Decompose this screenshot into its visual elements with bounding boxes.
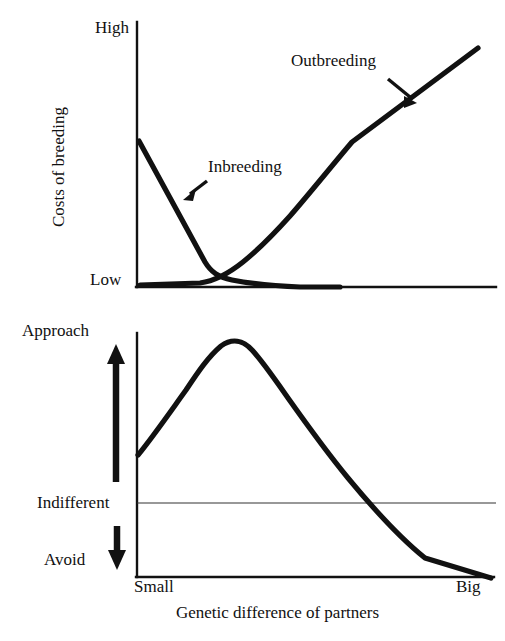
bottom-y-tick-indifferent: Indifferent [37, 494, 109, 511]
bottom-y-tick-approach: Approach [22, 322, 89, 339]
top-y-tick-high: High [95, 19, 129, 36]
breeding-cost-preference-figure: High Low Costs of breeding Inbreeding Ou… [0, 0, 505, 641]
outbreeding-label: Outbreeding [291, 52, 376, 69]
bottom-panel-axes [136, 333, 496, 577]
approach-arrow-icon [107, 344, 125, 482]
top-y-axis-label: Costs of breeding [50, 107, 67, 227]
mate-preference-curve [138, 341, 491, 578]
inbreeding-label: Inbreeding [208, 158, 282, 175]
bottom-x-axis-label: Genetic difference of partners [176, 604, 379, 621]
bottom-x-tick-big: Big [456, 578, 481, 595]
bottom-y-tick-avoid: Avoid [44, 551, 85, 568]
bottom-panel-curves [138, 341, 491, 578]
bottom-x-tick-small: Small [134, 578, 174, 595]
avoid-arrow-icon [108, 526, 126, 570]
top-y-tick-low: Low [90, 271, 121, 288]
top-panel-curves [139, 48, 478, 287]
outbreeding-curve [140, 48, 478, 285]
inbreeding-annotation-arrow [183, 181, 207, 201]
